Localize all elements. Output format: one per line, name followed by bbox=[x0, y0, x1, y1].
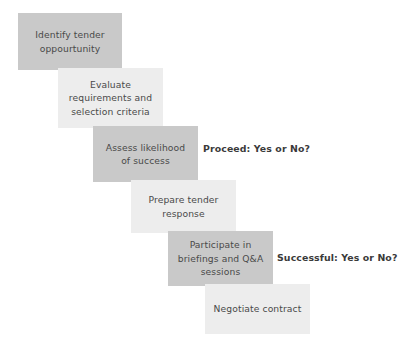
diagram-canvas: Identify tender oppourtunity Evaluate re… bbox=[0, 0, 405, 354]
process-step-identify-tender-opportunity[interactable]: Identify tender oppourtunity bbox=[18, 13, 122, 70]
process-step-negotiate-contract[interactable]: Negotiate contract bbox=[205, 284, 310, 334]
process-step-prepare-tender-response[interactable]: Prepare tender response bbox=[131, 180, 236, 233]
successful-decision-label: Successful: Yes or No? bbox=[277, 252, 397, 264]
proceed-decision-label: Proceed: Yes or No? bbox=[203, 143, 310, 155]
process-step-evaluate-requirements[interactable]: Evaluate requirements and selection crit… bbox=[58, 68, 163, 128]
process-step-participate-in-briefings[interactable]: Participate in briefings and Q&A session… bbox=[168, 231, 273, 286]
process-step-assess-likelihood-of-success[interactable]: Assess likelihood of success bbox=[93, 126, 198, 182]
